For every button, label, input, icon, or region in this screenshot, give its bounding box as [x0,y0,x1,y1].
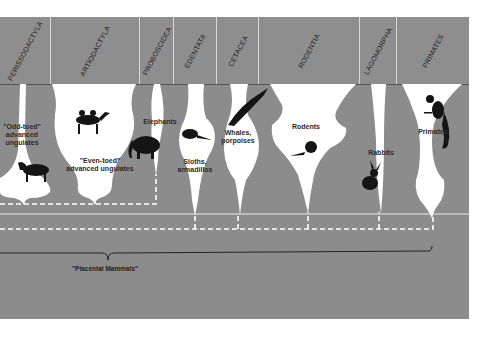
label-whales: Whales, porpoises [218,129,258,145]
caption-placental-mammals: "Placental Mammals" [72,265,138,272]
label-rodents: Rodents [276,123,336,131]
placental-bracket [0,246,432,260]
label-sloths: Sloths, armadillos [170,158,220,174]
label-odd-toed: "Odd-toed" advanced ungulates [0,123,44,147]
primates-spindle [402,84,462,218]
artiodactyla-spindle [52,84,136,205]
label-even-toed: "Even-toed" advanced ungulates [60,157,140,173]
proboscidea-spindle [151,84,163,175]
label-primates: Primates [410,128,456,136]
label-elephants: Elephants [136,118,184,126]
label-rabbits: Rabbits [356,149,406,157]
edentata-spindle [179,84,215,216]
